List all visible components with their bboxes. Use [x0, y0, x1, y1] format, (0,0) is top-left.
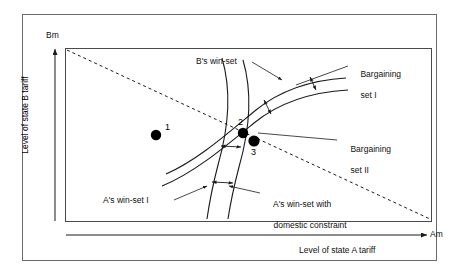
bargaining-set-1-line2: set I	[360, 90, 376, 100]
a-win-set-domestic-line2: domestic constraint	[273, 220, 346, 230]
y-axis-tip-label: Bm	[46, 30, 59, 41]
y-axis-title: Level of state B tariff	[20, 49, 30, 181]
annotation-bargaining-set-2: Bargaining set II	[341, 133, 391, 186]
span-arrow-a-band-lower	[212, 182, 233, 183]
bargaining-set-2-line2: set II	[350, 165, 368, 175]
data-point-3	[248, 135, 259, 146]
annotation-bargaining-set-1: Bargaining set I	[351, 58, 401, 111]
x-axis-tip-label: Am	[430, 229, 443, 240]
a-win-set-curve-domestic	[228, 60, 249, 219]
b-win-set-curve-upper	[166, 78, 346, 174]
leader-bargaining-set-1	[296, 66, 348, 85]
data-point-1-label: 1	[165, 122, 170, 132]
leader-a-win-set-1	[174, 186, 207, 200]
annotation-b-win-set: B's win-set	[196, 56, 237, 67]
leader-bargaining-set-2	[258, 133, 337, 140]
annotation-a-win-set-1: A's win-set I	[103, 195, 149, 206]
x-axis-title: Level of state A tariff	[299, 245, 375, 256]
bargaining-set-2-line1: Bargaining	[350, 144, 391, 154]
data-point-1	[151, 130, 161, 140]
figure-canvas: Bm Am Level of state B tariff Level of s…	[0, 0, 453, 275]
bargaining-set-1-line1: Bargaining	[360, 69, 401, 79]
annotation-a-win-set-domestic: A's win-set with domestic constraint	[264, 188, 347, 241]
data-point-2-label: 2	[238, 117, 243, 127]
leader-b-win-set	[252, 62, 282, 80]
data-point-2	[238, 128, 248, 138]
a-win-set-domestic-line1: A's win-set with	[273, 199, 331, 209]
data-point-3-label: 3	[251, 147, 256, 157]
a-win-set-curve-1	[207, 58, 228, 219]
